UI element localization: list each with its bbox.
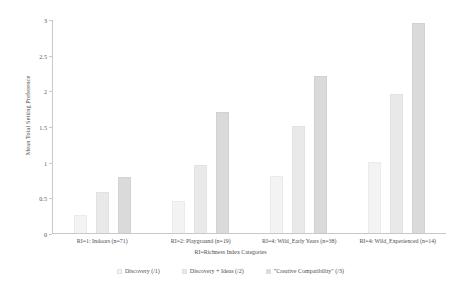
y-axis-tick-mark bbox=[49, 56, 52, 57]
bar-group bbox=[250, 20, 348, 233]
y-axis-tick-label: 3 bbox=[44, 17, 47, 24]
legend-swatch-icon bbox=[182, 269, 187, 274]
bar[interactable] bbox=[216, 112, 229, 233]
bar[interactable] bbox=[96, 192, 109, 233]
bar-chart: Mean Total Setting Preference 00.511.522… bbox=[0, 0, 461, 293]
x-axis-category-label: RI=4: Wild_Early Years (n=38) bbox=[250, 238, 349, 244]
bar[interactable] bbox=[270, 176, 283, 233]
x-axis-category-labels: RI=1: Indoors (n=71)RI=2: Playground (n=… bbox=[53, 238, 447, 244]
y-axis-tick-mark bbox=[49, 127, 52, 128]
legend-item[interactable]: "Creative Compatibility" (/3) bbox=[266, 268, 344, 274]
x-axis-category-label: RI=1: Indoors (n=71) bbox=[53, 238, 152, 244]
bar[interactable] bbox=[314, 76, 327, 233]
bar-group bbox=[151, 20, 249, 233]
bar[interactable] bbox=[390, 94, 403, 233]
y-axis-tick-mark bbox=[49, 20, 52, 21]
x-axis-category-label: RI=4: Wild_Experienced (n=14) bbox=[349, 238, 448, 244]
bar-group bbox=[53, 20, 151, 233]
bar[interactable] bbox=[194, 165, 207, 233]
chart-legend: Discovery (/1)Discovery + Ideas (/2)"Cre… bbox=[0, 268, 461, 274]
y-axis-title: Mean Total Setting Preference bbox=[24, 26, 31, 206]
legend-label: Discovery (/1) bbox=[125, 268, 160, 274]
y-axis-tick-label: 2.5 bbox=[39, 52, 47, 59]
legend-label: "Creative Compatibility" (/3) bbox=[274, 268, 344, 274]
bar[interactable] bbox=[412, 23, 425, 233]
y-axis-tick-label: 1.5 bbox=[39, 124, 47, 131]
bar[interactable] bbox=[292, 126, 305, 233]
bar[interactable] bbox=[118, 177, 131, 233]
legend-swatch-icon bbox=[117, 269, 122, 274]
bar[interactable] bbox=[368, 162, 381, 233]
y-axis-tick-mark bbox=[49, 91, 52, 92]
y-axis-tick-label: 2 bbox=[44, 88, 47, 95]
y-axis-tick-label: 0.5 bbox=[39, 195, 47, 202]
legend-item[interactable]: Discovery (/1) bbox=[117, 268, 160, 274]
plot-area: 00.511.522.53 bbox=[52, 20, 446, 234]
bar-group bbox=[348, 20, 446, 233]
y-axis-tick-mark bbox=[49, 163, 52, 164]
legend-item[interactable]: Discovery + Ideas (/2) bbox=[182, 268, 244, 274]
bar-groups bbox=[53, 20, 446, 233]
y-axis-tick-label: 1 bbox=[44, 159, 47, 166]
y-axis-tick-mark bbox=[49, 198, 52, 199]
x-axis-category-label: RI=2: Playground (n=19) bbox=[152, 238, 251, 244]
bar[interactable] bbox=[74, 215, 87, 233]
legend-label: Discovery + Ideas (/2) bbox=[190, 268, 244, 274]
bar[interactable] bbox=[172, 201, 185, 233]
x-axis-title: RI=Richness Index Categories bbox=[0, 249, 461, 255]
y-axis-tick-mark bbox=[49, 234, 52, 235]
y-axis-tick-label: 0 bbox=[44, 231, 47, 238]
legend-swatch-icon bbox=[266, 269, 271, 274]
x-axis-line bbox=[52, 233, 446, 234]
